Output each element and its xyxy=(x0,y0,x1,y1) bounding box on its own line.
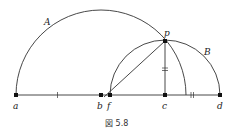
figure-caption: 図 5.8 xyxy=(105,119,128,128)
label-a: a xyxy=(13,101,18,111)
point-c xyxy=(163,93,167,97)
arc-A xyxy=(16,10,186,95)
point-b xyxy=(99,93,103,97)
point-d xyxy=(218,93,222,97)
point-markers xyxy=(14,39,222,97)
label-c: c xyxy=(162,101,167,111)
point-f xyxy=(108,93,112,97)
label-d: d xyxy=(217,101,223,111)
label-arc-B: B xyxy=(203,47,211,57)
point-a xyxy=(14,93,18,97)
geometry-figure: a b f c d p A B 図 5.8 xyxy=(0,0,237,140)
point-p xyxy=(163,39,167,43)
label-b: b xyxy=(97,101,103,111)
label-p: p xyxy=(164,28,170,38)
label-arc-A: A xyxy=(43,17,51,27)
label-f: f xyxy=(106,101,112,111)
